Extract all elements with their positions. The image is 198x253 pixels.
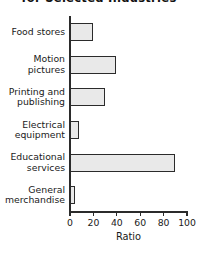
bar-row: Food stores	[0, 16, 198, 49]
x-axis-tick-labels: 020406080100	[0, 217, 198, 229]
bar-track	[70, 154, 175, 172]
bar-track	[70, 186, 75, 204]
bar-category-label: Printing and publishing	[0, 87, 65, 108]
bar-track	[70, 88, 105, 106]
bar-category-label: Motion pictures	[0, 54, 65, 75]
bar	[70, 23, 93, 41]
x-axis-title: Ratio	[69, 231, 188, 242]
bar-category-label: Educational services	[0, 152, 65, 173]
bar-track	[70, 56, 116, 74]
bar-category-label: Electrical equipment	[0, 120, 65, 141]
bar	[70, 56, 116, 74]
bar-row: General merchandise	[0, 179, 198, 212]
x-axis-tick-label: 80	[158, 217, 170, 228]
x-axis-tick	[163, 211, 164, 216]
bar-row: Printing and publishing	[0, 81, 198, 114]
bar-track	[70, 23, 93, 41]
x-axis-tick	[186, 211, 187, 216]
bar	[70, 154, 175, 172]
x-axis-tick-label: 0	[67, 217, 73, 228]
x-axis-tick-label: 100	[178, 217, 196, 228]
x-axis-tick-label: 60	[134, 217, 146, 228]
plot-area: Food storesMotion picturesPrinting and p…	[0, 0, 198, 253]
bar-row: Electrical equipment	[0, 114, 198, 147]
bar-chart: for Selected Industries Food storesMotio…	[0, 0, 198, 253]
x-axis-tick	[93, 211, 94, 216]
bar-row: Motion pictures	[0, 49, 198, 82]
x-axis-tick	[140, 211, 141, 216]
x-axis-tick	[116, 211, 117, 216]
x-axis-tick-label: 20	[87, 217, 99, 228]
x-axis-tick-label: 40	[111, 217, 123, 228]
bar	[70, 121, 79, 139]
bar	[70, 88, 105, 106]
bar-row: Educational services	[0, 146, 198, 179]
bar-category-label: General merchandise	[0, 185, 65, 206]
bar-rows: Food storesMotion picturesPrinting and p…	[0, 16, 198, 212]
x-axis-tick	[69, 211, 70, 216]
bar	[70, 186, 75, 204]
bar-category-label: Food stores	[0, 27, 65, 37]
bar-track	[70, 121, 79, 139]
